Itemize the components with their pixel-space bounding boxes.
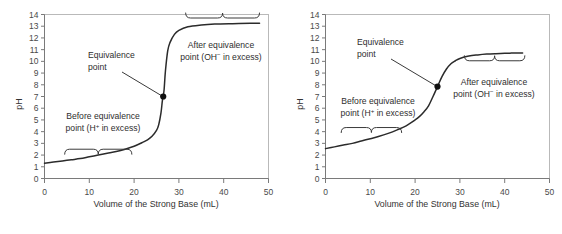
chart-panel-weak-acid: 01234567891011121314 pH 01020304050 Volu… xyxy=(281,0,562,234)
y-tick-label: 5 xyxy=(34,115,39,125)
y-tick-label: 2 xyxy=(34,150,39,160)
x-tick-group: 01020304050 xyxy=(42,179,273,197)
y-tick-label: 14 xyxy=(310,10,320,20)
after-equivalence-line1: After equivalence xyxy=(461,77,528,87)
after-equivalence-line2: point (OH− in excess) xyxy=(453,88,535,100)
brace-after-equivalence xyxy=(186,13,260,18)
y-axis-title: pH xyxy=(14,98,24,109)
y-tick-group: 01234567891011121314 xyxy=(29,10,44,184)
before-eq-prefix: point (H xyxy=(66,123,96,133)
y-axis-title: pH xyxy=(295,98,305,109)
after-eq-prefix: point (OH xyxy=(453,89,490,99)
x-tick-label: 40 xyxy=(500,187,510,197)
y-tick-label: 4 xyxy=(315,127,320,137)
x-axis-title: Volume of the Strong Base (mL) xyxy=(374,199,499,209)
x-tick-group: 01020304050 xyxy=(323,179,554,197)
after-equivalence-line1: After equivalence xyxy=(188,40,255,50)
x-tick-label: 10 xyxy=(85,187,95,197)
y-tick-label: 13 xyxy=(29,21,39,31)
x-tick-label: 30 xyxy=(455,187,465,197)
x-tick-label: 0 xyxy=(42,187,47,197)
after-equivalence-annotation: After equivalence point (OH− in excess) xyxy=(180,13,262,62)
equivalence-point-line1: Equivalence xyxy=(357,37,404,47)
y-tick-label: 11 xyxy=(30,45,39,55)
before-eq-prefix: point (H xyxy=(341,108,371,118)
titration-curves-figure: 01234567891011121314 pH 01020304050 Volu… xyxy=(0,0,562,234)
y-tick-label: 0 xyxy=(34,174,39,184)
brace-after-equivalence xyxy=(464,56,524,61)
y-tick-label: 8 xyxy=(34,80,39,90)
y-tick-label: 3 xyxy=(315,138,320,148)
equivalence-point-annotation: Equivalence point xyxy=(88,50,166,100)
y-tick-label: 14 xyxy=(29,10,39,20)
y-tick-label: 2 xyxy=(315,150,320,160)
after-equivalence-annotation: After equivalence point (OH− in excess) xyxy=(453,56,535,99)
y-tick-label: 11 xyxy=(311,45,320,55)
equivalence-leader-line xyxy=(391,59,436,86)
before-equivalence-line1: Before equivalence xyxy=(341,96,415,106)
y-tick-label: 5 xyxy=(315,115,320,125)
weak-acid-titration-plot: 01234567891011121314 pH 01020304050 Volu… xyxy=(281,0,562,234)
y-tick-label: 9 xyxy=(34,68,39,78)
y-axis: 01234567891011121314 pH xyxy=(295,10,326,184)
before-eq-suffix: in excess) xyxy=(374,108,415,118)
y-tick-label: 10 xyxy=(310,56,320,66)
after-eq-prefix: point (OH xyxy=(180,52,217,62)
y-tick-label: 12 xyxy=(310,33,320,43)
equivalence-point-line2: point xyxy=(357,49,376,59)
before-equivalence-line2: point (H+ in excess) xyxy=(341,107,416,119)
equivalence-point-line2: point xyxy=(88,62,107,72)
equivalence-point-marker xyxy=(434,83,440,89)
y-tick-label: 13 xyxy=(310,21,320,31)
x-tick-label: 50 xyxy=(545,187,555,197)
x-tick-label: 20 xyxy=(410,187,420,197)
x-tick-label: 30 xyxy=(174,187,184,197)
y-tick-label: 3 xyxy=(34,138,39,148)
y-tick-label: 8 xyxy=(315,80,320,90)
y-axis: 01234567891011121314 pH xyxy=(14,10,45,184)
x-tick-label: 50 xyxy=(264,187,274,197)
x-axis-title: Volume of the Strong Base (mL) xyxy=(93,199,218,209)
after-equivalence-line2: point (OH− in excess) xyxy=(180,51,262,63)
y-tick-label: 1 xyxy=(34,162,39,172)
y-tick-label: 6 xyxy=(315,103,320,113)
equivalence-point-line1: Equivalence xyxy=(88,50,135,60)
x-tick-label: 40 xyxy=(219,187,229,197)
x-tick-label: 0 xyxy=(323,187,328,197)
y-tick-label: 0 xyxy=(315,174,320,184)
after-eq-suffix: in excess) xyxy=(221,52,262,62)
x-axis: 01020304050 Volume of the Strong Base (m… xyxy=(323,179,554,210)
y-tick-label: 9 xyxy=(315,68,320,78)
y-tick-label: 1 xyxy=(315,162,320,172)
y-tick-label: 10 xyxy=(29,56,39,66)
x-tick-label: 20 xyxy=(129,187,139,197)
strong-acid-titration-plot: 01234567891011121314 pH 01020304050 Volu… xyxy=(0,0,281,234)
before-equivalence-line1: Before equivalence xyxy=(66,111,140,121)
x-tick-label: 10 xyxy=(366,187,376,197)
after-eq-suffix: in excess) xyxy=(494,89,535,99)
equivalence-point-marker xyxy=(160,93,166,99)
x-axis: 01020304050 Volume of the Strong Base (m… xyxy=(42,179,273,210)
y-tick-label: 7 xyxy=(34,92,39,102)
chart-panel-strong-acid: 01234567891011121314 pH 01020304050 Volu… xyxy=(0,0,281,234)
y-tick-label: 6 xyxy=(34,103,39,113)
y-tick-label: 7 xyxy=(315,92,320,102)
equivalence-leader-line xyxy=(122,72,161,96)
before-eq-suffix: in excess) xyxy=(99,123,140,133)
equivalence-point-annotation: Equivalence point xyxy=(357,37,441,90)
before-equivalence-line2: point (H+ in excess) xyxy=(66,122,141,134)
y-tick-group: 01234567891011121314 xyxy=(310,10,325,184)
y-tick-label: 12 xyxy=(29,33,39,43)
y-tick-label: 4 xyxy=(34,127,39,137)
